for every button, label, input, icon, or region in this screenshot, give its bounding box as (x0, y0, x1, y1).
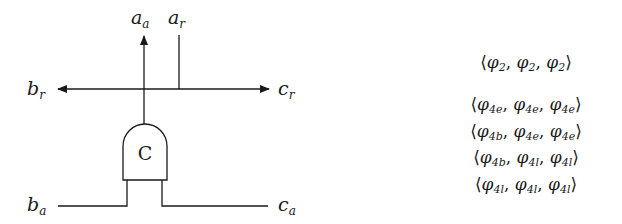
label-c-r: cr (278, 77, 296, 102)
angle-close: ⟩ (575, 121, 582, 141)
phi-symbol: φ (487, 52, 499, 72)
tuple-row: ⟨φ4e, φ4e, φ4e⟩ (430, 94, 622, 120)
phi-symbol: φ (517, 52, 529, 72)
phi-subscript: 4l (560, 183, 571, 196)
phi-symbol: φ (477, 121, 489, 141)
separator: , (539, 94, 550, 114)
angle-open: ⟨ (470, 121, 477, 141)
phi-symbol: φ (517, 147, 529, 167)
tuple-row: ⟨φ2, φ2, φ2⟩ (430, 52, 622, 78)
angle-close: ⟩ (570, 174, 577, 194)
separator: , (539, 147, 550, 167)
label-a-a: aa (131, 6, 149, 31)
separator: , (539, 121, 550, 141)
phi-subscript: 4l (527, 183, 538, 196)
angle-close: ⟩ (572, 147, 579, 167)
separator: , (535, 52, 546, 72)
separator: , (506, 52, 517, 72)
separator: , (502, 94, 513, 114)
b-a-wire (58, 180, 127, 206)
label-b-a: ba (27, 193, 46, 218)
angle-close: ⟩ (565, 52, 572, 72)
phi-symbol: φ (550, 94, 562, 114)
phi-subscript: 4b (492, 156, 506, 169)
phi-subscript: 4l (528, 156, 539, 169)
phi-symbol: φ (515, 174, 527, 194)
angle-open: ⟨ (473, 147, 480, 167)
tuple-row: ⟨φ4l, φ4l, φ4l⟩ (430, 174, 622, 200)
phi-subscript: 4e (561, 103, 575, 116)
phi-symbol: φ (513, 94, 525, 114)
separator: , (537, 174, 548, 194)
phi-subscript: 4b (489, 130, 503, 143)
phi-symbol: φ (550, 147, 562, 167)
separator: , (506, 147, 517, 167)
tuple-row: ⟨φ4b, φ4e, φ4e⟩ (430, 121, 622, 147)
separator: , (504, 174, 515, 194)
angle-close: ⟩ (575, 94, 582, 114)
phi-subscript: 4e (489, 103, 503, 116)
phi-subscript: 4l (493, 183, 504, 196)
phi-symbol: φ (550, 121, 562, 141)
phi-symbol: φ (514, 121, 526, 141)
label-a-r: ar (168, 6, 186, 31)
phi-subscript: 4e (525, 130, 539, 143)
c-gate-label: C (138, 142, 153, 164)
separator: , (503, 121, 514, 141)
tuple-row: ⟨φ4b, φ4l, φ4l⟩ (430, 147, 622, 173)
angle-open: ⟨ (480, 52, 487, 72)
phi-symbol: φ (482, 174, 494, 194)
phi-symbol: φ (480, 147, 492, 167)
phi-subscript: 4l (562, 156, 573, 169)
label-c-a: ca (278, 193, 296, 218)
label-b-r: br (27, 77, 46, 102)
c-a-wire (162, 180, 268, 206)
phi-subscript: 2 (499, 61, 506, 74)
phi-subscript: 4e (525, 103, 539, 116)
phi-symbol: φ (477, 94, 489, 114)
phi-symbol: φ (548, 174, 560, 194)
phi-subscript: 4e (562, 130, 576, 143)
angle-open: ⟨ (475, 174, 482, 194)
phi-symbol: φ (546, 52, 558, 72)
